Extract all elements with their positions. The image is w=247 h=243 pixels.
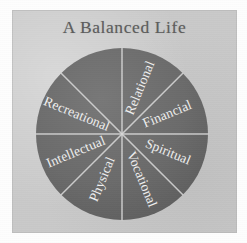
pie-chart: RelationalFinancialSpiritualVocationalPh… bbox=[0, 0, 247, 243]
pie-chart-svg: RelationalFinancialSpiritualVocationalPh… bbox=[0, 0, 247, 243]
screenshot-canvas: A Balanced Life RelationalFinancialSpiri… bbox=[0, 0, 247, 243]
slice-dividers bbox=[36, 48, 208, 220]
